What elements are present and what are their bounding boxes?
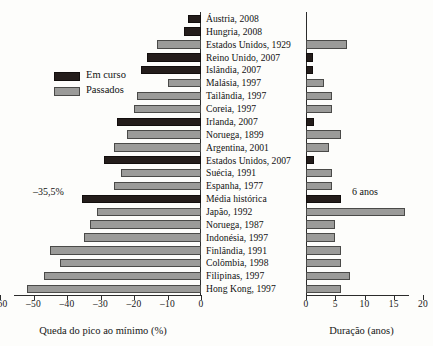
bar-drop-21 bbox=[27, 285, 201, 293]
bar-drop-16 bbox=[90, 220, 201, 228]
bar-duration-17 bbox=[306, 233, 335, 241]
bar-duration-11 bbox=[306, 156, 314, 164]
bar-drop-3 bbox=[147, 53, 201, 61]
bar-drop-1 bbox=[184, 27, 201, 35]
right-axis-title: Duração (anos) bbox=[300, 325, 423, 336]
bar-drop-11 bbox=[104, 156, 201, 164]
left-bar-group bbox=[0, 12, 201, 295]
bar-duration-10 bbox=[306, 143, 329, 151]
right-bar-group bbox=[306, 12, 423, 295]
bar-duration-12 bbox=[306, 169, 332, 177]
bar-duration-16 bbox=[306, 220, 335, 228]
bar-drop-0 bbox=[188, 15, 201, 23]
axis-tick-label: 20 bbox=[403, 299, 433, 309]
bar-duration-7 bbox=[306, 105, 332, 113]
bar-drop-19 bbox=[60, 259, 201, 267]
legend-label-past: Passados bbox=[86, 84, 124, 95]
chart-legend: Em curso Passados bbox=[54, 70, 172, 100]
left-axis-line bbox=[14, 295, 201, 296]
axis-tick-label: 0 bbox=[181, 299, 221, 309]
legend-entry-past: Passados bbox=[54, 85, 172, 98]
annotation-historical-average-duration: 6 anos bbox=[352, 186, 378, 197]
bar-duration-21 bbox=[306, 285, 341, 293]
left-chart-plot-area bbox=[0, 12, 201, 295]
legend-entry-ongoing: Em curso bbox=[54, 70, 172, 83]
legend-swatch-ongoing-icon bbox=[54, 72, 80, 81]
bar-duration-13 bbox=[306, 182, 332, 190]
bar-drop-8 bbox=[117, 118, 201, 126]
bar-drop-5 bbox=[168, 79, 202, 87]
bar-drop-13 bbox=[114, 182, 201, 190]
bar-duration-5 bbox=[306, 79, 324, 87]
bar-drop-15 bbox=[97, 208, 201, 216]
bar-drop-7 bbox=[134, 105, 201, 113]
bar-duration-8 bbox=[306, 118, 314, 126]
bar-duration-2 bbox=[306, 40, 347, 48]
bar-duration-15 bbox=[306, 208, 405, 216]
bar-duration-9 bbox=[306, 130, 341, 138]
bar-duration-18 bbox=[306, 246, 341, 254]
left-axis-title: Queda do pico ao mínimo (%) bbox=[0, 325, 206, 336]
legend-swatch-past-icon bbox=[54, 87, 80, 96]
bar-drop-12 bbox=[121, 169, 201, 177]
right-x-axis: 05101520 bbox=[306, 295, 423, 309]
category-label-column: Áustria, 2008Hungria, 2008Estados Unidos… bbox=[202, 12, 305, 295]
bar-duration-19 bbox=[306, 259, 341, 267]
bar-drop-2 bbox=[157, 40, 201, 48]
bar-drop-18 bbox=[50, 246, 201, 254]
category-label: Hong Kong, 1997 bbox=[206, 282, 276, 296]
bar-drop-20 bbox=[44, 272, 201, 280]
bar-drop-9 bbox=[127, 130, 201, 138]
bar-duration-4 bbox=[306, 66, 313, 74]
legend-label-ongoing: Em curso bbox=[86, 69, 126, 80]
bar-duration-3 bbox=[306, 53, 313, 61]
bar-drop-17 bbox=[84, 233, 201, 241]
annotation-historical-average-drop: –35,5% bbox=[33, 186, 64, 197]
bar-drop-14 bbox=[82, 195, 201, 203]
left-x-axis: –60–50–40–30–20–100 bbox=[0, 295, 201, 309]
bar-drop-10 bbox=[114, 143, 201, 151]
bar-duration-14 bbox=[306, 195, 341, 203]
right-chart-plot-area bbox=[306, 12, 423, 295]
bar-duration-20 bbox=[306, 272, 350, 280]
bar-duration-6 bbox=[306, 92, 332, 100]
